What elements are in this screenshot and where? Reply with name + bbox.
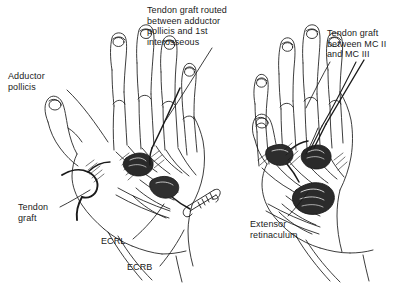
leader-graft-routed: [166, 48, 212, 120]
left-hand-drawing: [45, 25, 220, 282]
leader-ecrl: [133, 204, 164, 239]
label-tendon-graft-mc: Tendon graft between MC II and MC III: [327, 28, 386, 60]
label-ecrl: ECRL: [101, 236, 125, 247]
label-tendon-graft: Tendon graft: [18, 202, 48, 223]
label-tendon-graft-routed: Tendon graft routed between adductor pol…: [147, 5, 227, 47]
surgical-illustration-figure: Adductor pollicis Tendon graft routed be…: [0, 0, 420, 286]
label-adductor-pollicis: Adductor pollicis: [8, 71, 45, 92]
label-extensor-retinaculum: Extensor retinaculum: [250, 219, 298, 240]
leader-ecrb: [160, 230, 184, 266]
right-hand-drawing: [252, 25, 373, 282]
leader-adductor-pollicis: [67, 90, 108, 142]
label-ecrb: ECRB: [127, 262, 152, 273]
